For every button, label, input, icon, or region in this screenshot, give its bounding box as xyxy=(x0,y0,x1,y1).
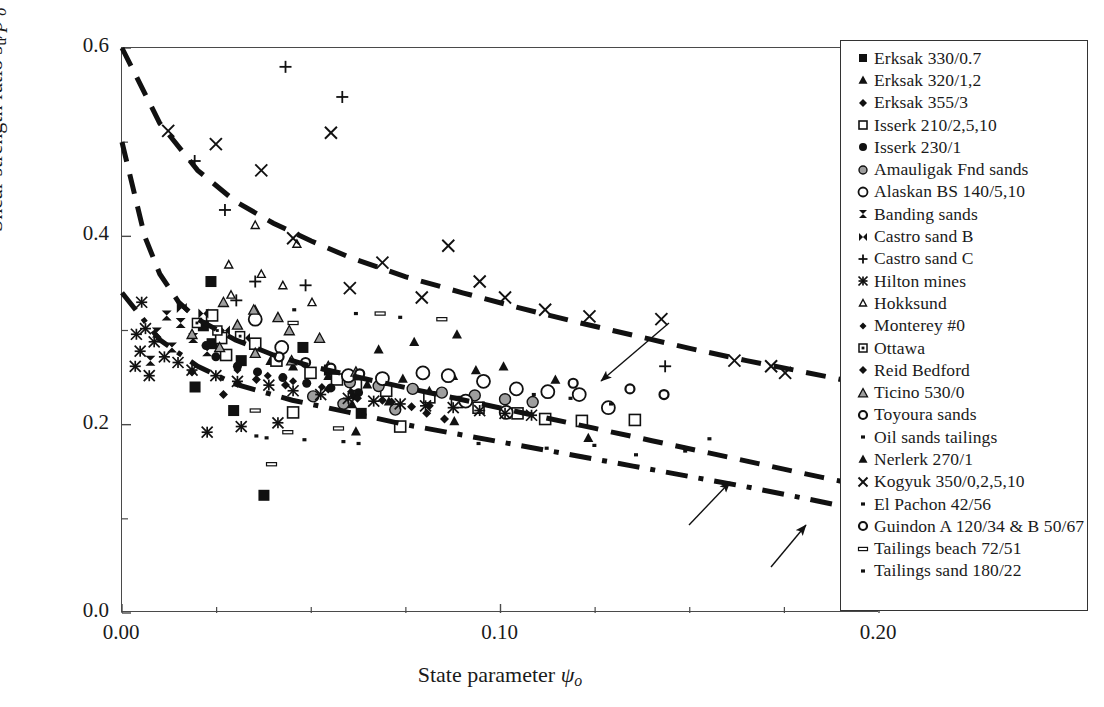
cross-x-icon xyxy=(852,474,874,490)
open-square-dot-icon xyxy=(852,340,874,356)
legend-item-label: Hokksund xyxy=(874,293,947,314)
legend-item[interactable]: Amauligak Fnd sands xyxy=(841,158,1087,180)
bowtie-v-icon xyxy=(852,229,874,245)
x-axis-label-text: State parameter xyxy=(418,662,555,687)
dot-2-icon xyxy=(852,496,874,512)
legend-item-label: Isserk 230/1 xyxy=(874,137,961,158)
filled-triangle-icon xyxy=(852,72,874,88)
y-tick-label: 0.4 xyxy=(49,221,109,246)
y-tick-label: 0.2 xyxy=(49,410,109,435)
legend-item[interactable]: Alaskan BS 140/5,10 xyxy=(841,181,1087,203)
figure-root: Shear strength ratio su/p′o State parame… xyxy=(0,0,1104,707)
small-triangle-icon xyxy=(852,295,874,311)
gray-triangle-icon xyxy=(852,385,874,401)
legend-box: Erksak 330/0.7Erksak 320/1,2Erksak 355/3… xyxy=(840,40,1088,611)
ring-2-icon xyxy=(852,518,874,534)
small-diamond-icon xyxy=(852,318,874,334)
annotation-arrow xyxy=(689,482,730,525)
legend-item[interactable]: Erksak 320/1,2 xyxy=(841,69,1087,91)
legend-item-label: Tailings sand 180/22 xyxy=(874,560,1022,581)
filled-square-icon xyxy=(852,50,874,66)
trend-lines-group xyxy=(122,48,849,508)
legend-item[interactable]: Toyoura sands xyxy=(841,404,1087,426)
legend-items: Erksak 330/0.7Erksak 320/1,2Erksak 355/3… xyxy=(841,47,1087,582)
legend-item[interactable]: Ottawa xyxy=(841,337,1087,359)
star-x-icon xyxy=(852,273,874,289)
filled-circle-icon xyxy=(852,139,874,155)
legend-item-label: Guindon A 120/34 & B 50/67 xyxy=(874,516,1084,537)
dot-3-icon xyxy=(852,563,874,579)
legend-item-label: Kogyuk 350/0,2,5,10 xyxy=(874,471,1025,492)
legend-item[interactable]: Kogyuk 350/0,2,5,10 xyxy=(841,471,1087,493)
legend-item-label: Erksak 355/3 xyxy=(874,92,968,113)
legend-item[interactable]: Hilton mines xyxy=(841,270,1087,292)
legend-item[interactable]: Reid Bedford xyxy=(841,359,1087,381)
legend-item[interactable]: Monterey #0 xyxy=(841,315,1087,337)
plus-icon xyxy=(852,251,874,267)
legend-item[interactable]: Ticino 530/0 xyxy=(841,381,1087,403)
legend-item[interactable]: Isserk 230/1 xyxy=(841,136,1087,158)
legend-item[interactable]: Tailings sand 180/22 xyxy=(841,560,1087,582)
clover-diamond-icon xyxy=(852,362,874,378)
legend-item[interactable]: Tailings beach 72/51 xyxy=(841,538,1087,560)
legend-item-label: Ottawa xyxy=(874,338,925,359)
legend-item-label: Castro sand B xyxy=(874,226,974,247)
legend-item[interactable]: Hokksund xyxy=(841,292,1087,314)
trend-line xyxy=(122,142,841,481)
y-axis-symbol: su/p′o xyxy=(0,8,7,54)
axis-ticks xyxy=(122,48,879,613)
legend-item-label: Erksak 320/1,2 xyxy=(874,70,981,91)
x-tick-label: 0.10 xyxy=(455,620,545,645)
open-square-icon xyxy=(852,117,874,133)
annotation-arrows xyxy=(601,323,806,567)
annotation-arrow xyxy=(771,525,806,567)
legend-item-label: Alaskan BS 140/5,10 xyxy=(874,181,1025,202)
legend-item-label: Isserk 210/2,5,10 xyxy=(874,115,997,136)
legend-item[interactable]: Nerlerk 270/1 xyxy=(841,448,1087,470)
legend-item-label: Amauligak Fnd sands xyxy=(874,159,1029,180)
ring-icon xyxy=(852,407,874,423)
legend-item[interactable]: El Pachon 42/56 xyxy=(841,493,1087,515)
scatter-series xyxy=(254,434,360,445)
y-tick-label: 0.6 xyxy=(49,33,109,58)
plot-frame xyxy=(121,47,878,612)
x-tick-label: 0.20 xyxy=(833,620,923,645)
open-circle-icon xyxy=(852,184,874,200)
legend-item[interactable]: Castro sand C xyxy=(841,248,1087,270)
dot-icon xyxy=(852,429,874,445)
legend-item[interactable]: Guindon A 120/34 & B 50/67 xyxy=(841,515,1087,537)
scatter-series xyxy=(374,329,462,353)
legend-item-label: Nerlerk 270/1 xyxy=(874,449,973,470)
legend-item-label: Toyoura sands xyxy=(874,404,977,425)
legend-item-label: El Pachon 42/56 xyxy=(874,494,991,515)
legend-item[interactable]: Isserk 210/2,5,10 xyxy=(841,114,1087,136)
legend-item-label: Ticino 530/0 xyxy=(874,382,965,403)
legend-item[interactable]: Castro sand B xyxy=(841,225,1087,247)
legend-item-label: Banding sands xyxy=(874,204,978,225)
legend-item[interactable]: Oil sands tailings xyxy=(841,426,1087,448)
legend-item-label: Reid Bedford xyxy=(874,360,970,381)
trend-line xyxy=(122,293,849,508)
dash-icon xyxy=(852,541,874,557)
y-axis-label-text: Shear strength ratio xyxy=(0,60,7,232)
legend-item-label: Hilton mines xyxy=(874,271,966,292)
gray-triangle-2-icon xyxy=(852,451,874,467)
legend-item-label: Monterey #0 xyxy=(874,315,965,336)
filled-diamond-icon xyxy=(852,95,874,111)
annotation-arrow xyxy=(601,323,669,381)
x-tick-label: 0.00 xyxy=(76,620,166,645)
plot-canvas xyxy=(122,48,879,613)
legend-item-label: Tailings beach 72/51 xyxy=(874,538,1022,559)
legend-item[interactable]: Erksak 330/0.7 xyxy=(841,47,1087,69)
x-axis-title: State parameter ψo xyxy=(0,662,1000,690)
legend-item-label: Oil sands tailings xyxy=(874,427,997,448)
y-axis-title: Shear strength ratio su/p′o xyxy=(0,0,10,232)
legend-item-label: Erksak 330/0.7 xyxy=(874,48,981,69)
legend-item[interactable]: Erksak 355/3 xyxy=(841,92,1087,114)
bowtie-h-icon xyxy=(852,206,874,222)
legend-item[interactable]: Banding sands xyxy=(841,203,1087,225)
gray-circle-icon xyxy=(852,162,874,178)
legend-item-label: Castro sand C xyxy=(874,248,974,269)
x-axis-symbol: ψ xyxy=(561,662,575,687)
